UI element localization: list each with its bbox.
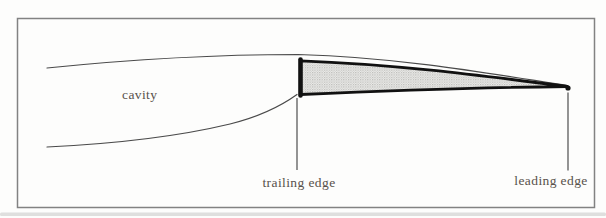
lower-cavity-boundary-curve bbox=[47, 95, 297, 148]
leading-edge-label: leading edge bbox=[514, 174, 587, 188]
figure-canvas: cavity trailing edge leading edge bbox=[0, 0, 606, 218]
trailing-edge-label: trailing edge bbox=[262, 176, 335, 190]
leading-edge-point-dot bbox=[565, 85, 570, 90]
page-bottom-scan-smudge bbox=[0, 213, 606, 216]
cavity-label: cavity bbox=[122, 88, 157, 102]
